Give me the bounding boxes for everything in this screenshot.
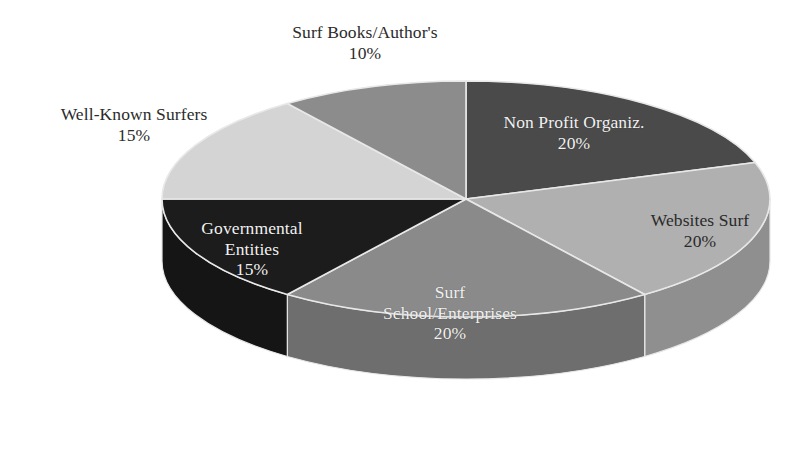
slice-label-surf-school-name1: Surf [336,282,564,303]
slice-label-websites-surf: Websites Surf 20% [618,210,782,251]
slice-label-surf-books-name: Surf Books/Author's [240,22,490,43]
slice-label-governmental-entities-name2: Entities [152,239,352,260]
slice-label-non-profit-name: Non Profit Organiz. [462,112,686,133]
slice-label-non-profit-value: 20% [462,133,686,154]
slice-label-governmental-entities-value: 15% [152,259,352,280]
pie-chart: Surf Books/Author's 10% Well-Known Surfe… [0,0,798,466]
slice-label-websites-surf-value: 20% [618,231,782,252]
slice-label-well-known-surfers: Well-Known Surfers 15% [18,104,250,145]
slice-label-surf-books-value: 10% [240,43,490,64]
slice-label-well-known-surfers-value: 15% [18,125,250,146]
slice-label-websites-surf-name: Websites Surf [618,210,782,231]
slice-label-surf-school-name2: School/Enterprises [336,303,564,324]
slice-label-surf-school-value: 20% [336,323,564,344]
slice-label-surf-school: Surf School/Enterprises 20% [336,282,564,344]
slice-label-governmental-entities-name1: Governmental [152,218,352,239]
slice-label-non-profit: Non Profit Organiz. 20% [462,112,686,153]
slice-label-well-known-surfers-name: Well-Known Surfers [18,104,250,125]
slice-label-surf-books: Surf Books/Author's 10% [240,22,490,63]
slice-label-governmental-entities: Governmental Entities 15% [152,218,352,280]
